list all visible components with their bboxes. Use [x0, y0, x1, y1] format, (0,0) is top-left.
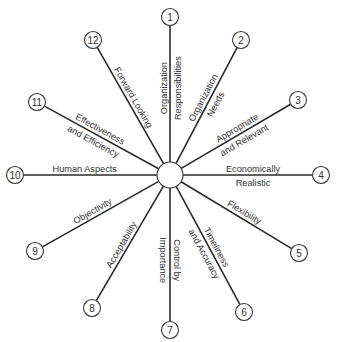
node-2: 2: [233, 32, 250, 49]
node-8: 8: [84, 300, 101, 317]
node-number: 10: [9, 170, 21, 181]
spoke-label-line1: Organization: [159, 62, 169, 114]
node-number: 6: [241, 307, 247, 318]
spoke-label-line2: Responsibilities: [173, 56, 183, 120]
center-hub: [157, 162, 183, 188]
radial-spoke-diagram: OrganizationResponsibilitiesOrganization…: [0, 0, 340, 342]
node-3: 3: [290, 92, 307, 109]
spoke-9: [42, 181, 158, 246]
spoke-label-12: Forward Looking: [112, 65, 155, 129]
node-number: 5: [296, 248, 302, 259]
spoke-label-line2: Importance: [158, 237, 168, 283]
node-number: 11: [32, 97, 43, 108]
node-6: 6: [236, 304, 253, 321]
node-number: 1: [167, 12, 173, 23]
node-1: 1: [162, 9, 179, 26]
spoke-label-line1: Economically: [226, 164, 281, 174]
node-number: 7: [167, 325, 173, 336]
node-11: 11: [29, 94, 46, 111]
spoke-label-line1: Human Aspects: [53, 164, 118, 174]
node-number: 3: [295, 95, 301, 106]
node-4: 4: [313, 167, 330, 184]
node-9: 9: [27, 243, 44, 260]
spoke-label-10: Human Aspects: [53, 164, 118, 174]
node-7: 7: [162, 322, 179, 339]
spoke-label-line1: Control by: [172, 239, 182, 281]
node-number: 4: [318, 170, 324, 181]
node-number: 9: [32, 246, 38, 257]
node-5: 5: [291, 245, 308, 262]
spoke-label-8: Acceptability: [104, 220, 139, 270]
spoke-label-line2: Realistic: [236, 178, 271, 188]
spoke-label-line1: Forward Looking: [112, 65, 155, 129]
spoke-label-line1: Acceptability: [104, 220, 139, 270]
node-number: 8: [89, 303, 95, 314]
node-10: 10: [7, 167, 24, 184]
node-number: 2: [238, 35, 244, 46]
node-number: 12: [87, 35, 99, 46]
node-12: 12: [85, 32, 102, 49]
